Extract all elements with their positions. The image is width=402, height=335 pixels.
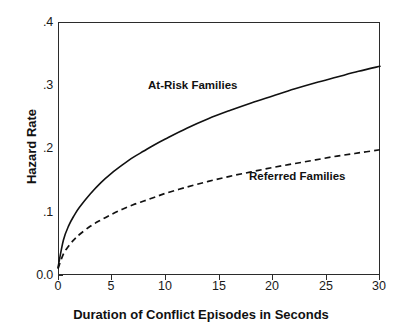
x-tick-label-20: 20 [265,279,279,293]
hazard-rate-chart: .4 .3 .2 .1 0.0 At-Risk Families Referre… [0,0,402,335]
y-tick-label-0.3: .3 [43,78,53,92]
x-tick-label-25: 25 [319,279,333,293]
x-tick-label-10: 10 [158,279,172,293]
curve-at-risk-families [58,66,380,267]
y-tick-label-0.2: .2 [43,141,53,155]
y-tick-label-0.0: 0.0 [36,268,53,282]
series-label-referred-families: Referred Families [249,170,346,182]
x-axis-title: Duration of Conflict Episodes in Seconds [0,307,402,322]
series-label-at-risk-families: At-Risk Families [148,79,237,91]
x-tick-label-30: 30 [372,279,386,293]
y-tick-label-0.1: .1 [43,205,53,219]
y-tick-label-0.4: .4 [43,15,53,29]
curve-referred-families [58,150,380,269]
x-tick-label-15: 15 [212,279,226,293]
y-axis-title: Hazard Rate [24,47,39,247]
x-tick-label-0: 0 [55,279,62,293]
x-tick-label-5: 5 [108,279,115,293]
series-curves [58,22,380,275]
